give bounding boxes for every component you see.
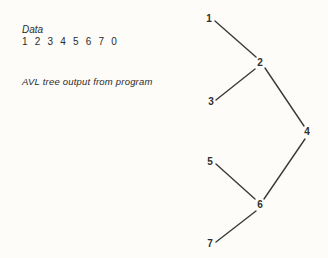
tree-edge-2-4 (265, 68, 304, 126)
tree-node-3: 3 (206, 96, 216, 108)
tree-node-5: 5 (205, 156, 215, 168)
tree-node-6: 6 (255, 199, 265, 211)
tree-node-7: 7 (205, 238, 215, 250)
avl-tree-figure: Data 1 2 3 4 5 6 7 0 AVL tree output fro… (0, 0, 328, 258)
tree-node-1: 1 (204, 13, 214, 25)
tree-node-4: 4 (302, 126, 312, 138)
tree-edge-4-6 (264, 139, 305, 199)
tree-edges (0, 0, 328, 258)
tree-edge-3-2 (216, 69, 255, 100)
tree-node-2: 2 (255, 57, 265, 69)
tree-edge-5-6 (216, 164, 255, 199)
tree-edge-1-2 (215, 21, 256, 57)
tree-edge-7-6 (216, 211, 256, 242)
